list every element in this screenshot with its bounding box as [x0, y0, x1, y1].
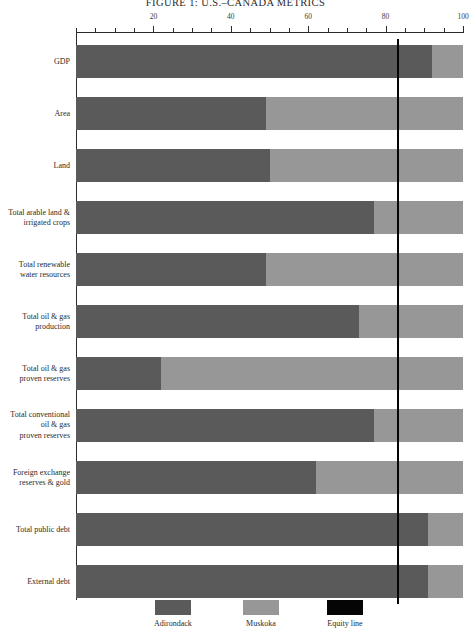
table-row[interactable] — [76, 409, 463, 442]
bar-segment-muskoka[interactable] — [374, 201, 463, 234]
category-label: External debt — [0, 576, 70, 587]
legend-label: Equity line — [327, 619, 363, 628]
legend-swatch-icon — [327, 600, 363, 615]
x-tick-10 — [115, 28, 116, 33]
x-tick-65 — [328, 28, 329, 33]
bar-segment-muskoka[interactable] — [266, 97, 463, 130]
x-tick-80 — [386, 26, 387, 33]
bar-segment-adirondack[interactable] — [76, 513, 428, 546]
x-tick-70 — [347, 28, 348, 33]
bar-segment-muskoka[interactable] — [161, 357, 463, 390]
legend-label: Muskoka — [243, 619, 279, 628]
x-tick-55 — [289, 28, 290, 33]
x-tick-15 — [134, 28, 135, 33]
bar-segment-adirondack[interactable] — [76, 305, 359, 338]
category-label: Total public debt — [0, 524, 70, 535]
x-tick-label-60: 60 — [304, 12, 312, 21]
x-tick-35 — [211, 28, 212, 33]
table-row[interactable] — [76, 565, 463, 598]
bar-segment-muskoka[interactable] — [270, 149, 464, 182]
category-label: Foreign exchange reserves & gold — [0, 467, 70, 488]
x-tick-40 — [231, 26, 232, 33]
x-tick-60 — [308, 26, 309, 33]
bar-segment-adirondack[interactable] — [76, 565, 428, 598]
table-row[interactable] — [76, 357, 463, 390]
table-row[interactable] — [76, 97, 463, 130]
x-tick-45 — [250, 28, 251, 33]
chart-legend: AdirondackMuskokaEquity line — [0, 600, 471, 638]
bar-segment-muskoka[interactable] — [266, 253, 463, 286]
bar-segment-adirondack[interactable] — [76, 409, 374, 442]
table-row[interactable] — [76, 149, 463, 182]
x-tick-0 — [76, 28, 77, 33]
bar-segment-muskoka[interactable] — [428, 565, 463, 598]
category-label: GDP — [0, 56, 70, 67]
table-row[interactable] — [76, 253, 463, 286]
bar-segment-muskoka[interactable] — [359, 305, 463, 338]
bar-segment-adirondack[interactable] — [76, 97, 266, 130]
x-tick-100 — [463, 26, 464, 33]
figure-root: FIGURE 1: U.S.–CANADA METRICS 2040608010… — [0, 0, 471, 640]
x-tick-label-100: 100 — [457, 12, 468, 21]
bar-segment-muskoka[interactable] — [432, 45, 463, 78]
table-row[interactable] — [76, 201, 463, 234]
x-tick-95 — [444, 28, 445, 33]
table-row[interactable] — [76, 513, 463, 546]
category-label: Land — [0, 160, 70, 171]
bar-segment-adirondack[interactable] — [76, 149, 270, 182]
x-tick-30 — [192, 28, 193, 33]
bar-segment-adirondack[interactable] — [76, 461, 316, 494]
legend-swatch-icon — [155, 600, 191, 615]
x-tick-label-20: 20 — [150, 12, 158, 21]
figure-title: FIGURE 1: U.S.–CANADA METRICS — [0, 0, 471, 8]
table-row[interactable] — [76, 305, 463, 338]
bar-segment-muskoka[interactable] — [428, 513, 463, 546]
plot-area: 20406080100 — [76, 33, 463, 600]
bar-segment-adirondack[interactable] — [76, 357, 161, 390]
category-label: Total oil & gas production — [0, 311, 70, 332]
legend-swatch-icon — [243, 600, 279, 615]
bar-segment-adirondack[interactable] — [76, 45, 432, 78]
bar-segment-muskoka[interactable] — [374, 409, 463, 442]
x-tick-label-40: 40 — [227, 12, 235, 21]
category-label: Total arable land & irrigated crops — [0, 207, 70, 228]
bar-segment-adirondack[interactable] — [76, 201, 374, 234]
equity-line — [397, 39, 399, 604]
x-tick-5 — [95, 28, 96, 33]
legend-adirondack[interactable]: Adirondack — [154, 600, 192, 628]
table-row[interactable] — [76, 45, 463, 78]
legend-label: Adirondack — [154, 619, 192, 628]
legend-muskoka[interactable]: Muskoka — [243, 600, 279, 628]
x-tick-85 — [405, 28, 406, 33]
table-row[interactable] — [76, 461, 463, 494]
x-tick-20 — [153, 26, 154, 33]
category-label: Total oil & gas proven reserves — [0, 363, 70, 384]
bar-segment-muskoka[interactable] — [316, 461, 463, 494]
category-label: Total conventional oil & gas proven rese… — [0, 410, 70, 442]
bar-segment-adirondack[interactable] — [76, 253, 266, 286]
category-label: Total renewable water resources — [0, 259, 70, 280]
x-tick-label-80: 80 — [382, 12, 390, 21]
x-tick-75 — [366, 28, 367, 33]
x-tick-50 — [270, 28, 271, 33]
x-tick-90 — [424, 28, 425, 33]
legend-equity-line[interactable]: Equity line — [327, 600, 363, 628]
x-tick-25 — [173, 28, 174, 33]
category-label: Area — [0, 108, 70, 119]
